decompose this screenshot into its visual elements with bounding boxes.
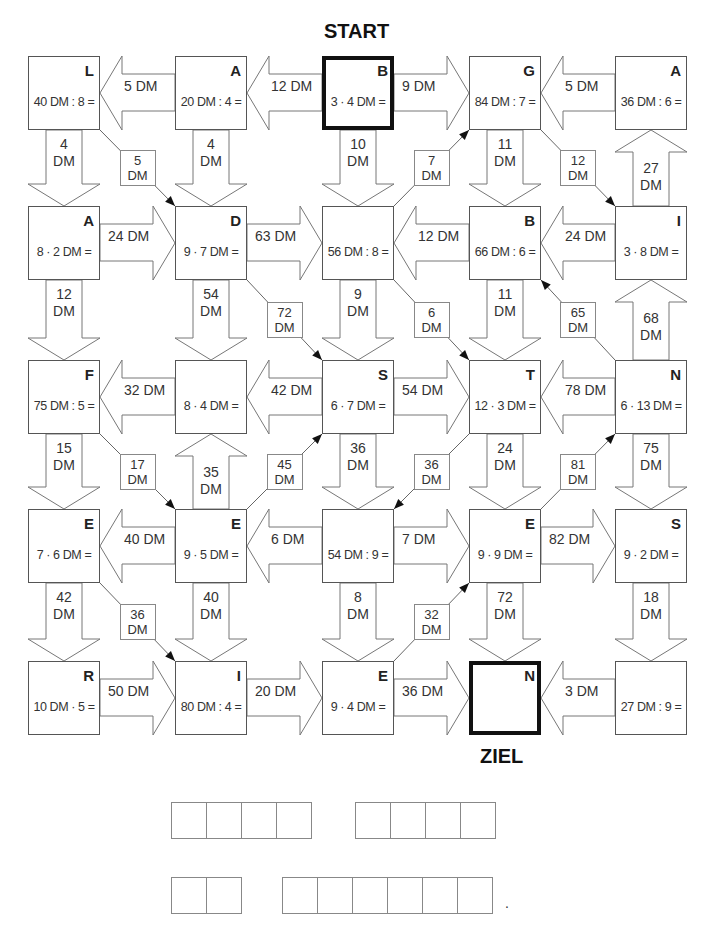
field-r1c0: A8 · 2 DM = bbox=[28, 206, 100, 280]
arrow-amount-h: 6 DM bbox=[271, 531, 304, 548]
field-letter: S bbox=[671, 515, 681, 532]
amount-unit: DM bbox=[640, 177, 662, 193]
field-r3c1: E9 · 5 DM = bbox=[175, 509, 247, 583]
field-r0c1: A20 DM : 4 = bbox=[175, 56, 247, 130]
arrow-amount-h: 40 DM bbox=[124, 531, 165, 548]
arrow-amount-v: 24DM bbox=[487, 440, 523, 474]
field-letter: L bbox=[85, 62, 94, 79]
amount-unit: DM bbox=[640, 606, 662, 622]
diagonal-amount: 81DM bbox=[560, 454, 596, 490]
field-r1c1: D9 · 7 DM = bbox=[175, 206, 247, 280]
arrow-amount-v: 8DM bbox=[340, 589, 376, 623]
amount-unit: DM bbox=[200, 303, 222, 319]
field-task: 3 · 8 DM = bbox=[616, 245, 686, 259]
arrow-amount-v: 35DM bbox=[193, 464, 229, 498]
arrow-amount-v: 18DM bbox=[633, 589, 669, 623]
field-task: 8 · 4 DM = bbox=[176, 399, 246, 413]
amount-unit: DM bbox=[494, 606, 516, 622]
field-letter: E bbox=[525, 515, 535, 532]
amount-unit: DM bbox=[347, 606, 369, 622]
amount-value: 36 bbox=[350, 440, 366, 456]
amount-value: 75 bbox=[643, 440, 659, 456]
field-task: 36 DM : 6 = bbox=[616, 95, 686, 109]
field-letter: G bbox=[523, 62, 535, 79]
field-letter: A bbox=[230, 62, 241, 79]
field-letter: A bbox=[670, 62, 681, 79]
field-letter: S bbox=[378, 366, 388, 383]
field-r3c2: 54 DM : 9 = bbox=[322, 509, 394, 583]
amount-unit: DM bbox=[421, 168, 441, 183]
amount-unit: DM bbox=[494, 303, 516, 319]
field-r0c3: G84 DM : 7 = bbox=[469, 56, 541, 130]
arrow-amount-h: 20 DM bbox=[255, 683, 296, 700]
amount-unit: DM bbox=[568, 320, 588, 335]
amount-value: 27 bbox=[643, 160, 659, 176]
field-letter: D bbox=[230, 212, 241, 229]
amount-value: 36 bbox=[130, 607, 144, 622]
arrow-amount-h: 36 DM bbox=[402, 683, 443, 700]
field-letter: N bbox=[670, 366, 681, 383]
amount-value: 4 bbox=[60, 136, 68, 152]
amount-value: 72 bbox=[277, 305, 291, 320]
field-task: 66 DM : 6 = bbox=[470, 245, 540, 259]
amount-unit: DM bbox=[127, 168, 147, 183]
field-letter: E bbox=[84, 515, 94, 532]
field-r2c2: S6 · 7 DM = bbox=[322, 360, 394, 434]
arrow-amount-h: 12 DM bbox=[271, 78, 312, 95]
field-letter: I bbox=[677, 212, 681, 229]
field-task: 84 DM : 7 = bbox=[470, 95, 540, 109]
field-r4c4: 27 DM : 9 = bbox=[615, 661, 687, 735]
amount-unit: DM bbox=[53, 303, 75, 319]
field-task: 9 · 2 DM = bbox=[616, 548, 686, 562]
amount-unit: DM bbox=[347, 153, 369, 169]
amount-unit: DM bbox=[200, 153, 222, 169]
field-task: 10 DM · 5 = bbox=[29, 700, 99, 714]
amount-value: 18 bbox=[643, 589, 659, 605]
amount-unit: DM bbox=[421, 320, 441, 335]
amount-value: 10 bbox=[350, 136, 366, 152]
amount-unit: DM bbox=[421, 472, 441, 487]
amount-value: 12 bbox=[56, 286, 72, 302]
amount-value: 42 bbox=[56, 589, 72, 605]
arrow-amount-h: 63 DM bbox=[255, 228, 296, 245]
amount-value: 32 bbox=[424, 607, 438, 622]
arrow-amount-v: 15DM bbox=[46, 440, 82, 474]
field-r0c2: B3 · 4 DM = bbox=[322, 56, 394, 130]
diagonal-amount: 12DM bbox=[560, 150, 596, 186]
amount-unit: DM bbox=[640, 457, 662, 473]
arrow-amount-h: 7 DM bbox=[402, 531, 435, 548]
diagonal-amount: 72DM bbox=[267, 302, 303, 338]
field-letter: E bbox=[378, 667, 388, 684]
field-r1c2: 56 DM : 8 = bbox=[322, 206, 394, 280]
field-letter: E bbox=[231, 515, 241, 532]
diagonal-amount: 36DM bbox=[414, 454, 450, 490]
field-letter: I bbox=[237, 667, 241, 684]
amount-unit: DM bbox=[568, 168, 588, 183]
field-r4c1: I80 DM : 4 = bbox=[175, 661, 247, 735]
arrow-amount-h: 5 DM bbox=[124, 78, 157, 95]
diagonal-amount: 7DM bbox=[414, 150, 450, 186]
field-r4c0: R10 DM · 5 = bbox=[28, 661, 100, 735]
field-letter: B bbox=[524, 212, 535, 229]
field-r2c4: N6 · 13 DM = bbox=[615, 360, 687, 434]
amount-unit: DM bbox=[200, 606, 222, 622]
amount-unit: DM bbox=[53, 153, 75, 169]
arrow-amount-h: 12 DM bbox=[418, 228, 459, 245]
amount-value: 68 bbox=[643, 310, 659, 326]
arrow-amount-v: 4DM bbox=[193, 136, 229, 170]
amount-value: 54 bbox=[203, 286, 219, 302]
amount-unit: DM bbox=[127, 472, 147, 487]
field-r3c4: S9 · 2 DM = bbox=[615, 509, 687, 583]
arrow-amount-h: 32 DM bbox=[124, 382, 165, 399]
amount-value: 17 bbox=[130, 457, 144, 472]
arrow-amount-v: 40DM bbox=[193, 589, 229, 623]
arrow-amount-v: 27DM bbox=[633, 160, 669, 194]
amount-unit: DM bbox=[347, 303, 369, 319]
field-r3c0: E7 · 6 DM = bbox=[28, 509, 100, 583]
amount-unit: DM bbox=[494, 153, 516, 169]
arrow-amount-h: 5 DM bbox=[565, 78, 598, 95]
field-task: 40 DM : 8 = bbox=[29, 95, 99, 109]
field-task: 9 · 9 DM = bbox=[470, 548, 540, 562]
field-task: 9 · 4 DM = bbox=[323, 700, 393, 714]
amount-unit: DM bbox=[53, 457, 75, 473]
